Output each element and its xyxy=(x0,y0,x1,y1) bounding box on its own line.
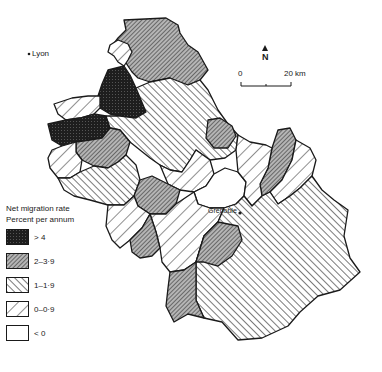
swatch-blank xyxy=(6,325,29,341)
legend-label: < 0 xyxy=(34,329,45,338)
legend-subtitle: Percent per annum xyxy=(6,214,74,225)
region-center-gray xyxy=(206,118,236,148)
legend-item-2-39: 2–3·9 xyxy=(6,249,74,273)
swatch-fine-diagonal-gray xyxy=(6,253,29,269)
legend-item-lt0: < 0 xyxy=(6,321,74,345)
legend-item-0-09: 0–0·9 xyxy=(6,297,74,321)
scale-bar xyxy=(241,82,291,86)
north-label: N xyxy=(262,52,269,62)
legend: Net migration rate Percent per annum > 4… xyxy=(6,203,74,345)
place-label-lyon: Lyon xyxy=(32,49,49,58)
legend-label: 2–3·9 xyxy=(34,257,54,266)
scale-end-label: 20 km xyxy=(284,69,306,78)
legend-label: 1–1·9 xyxy=(34,281,54,290)
legend-label: 0–0·9 xyxy=(34,305,54,314)
grenoble-marker xyxy=(238,211,241,214)
legend-item-1-19: 1–1·9 xyxy=(6,273,74,297)
legend-title: Net migration rate xyxy=(6,203,74,214)
swatch-dense-black xyxy=(6,229,29,245)
legend-label: > 4 xyxy=(34,233,45,242)
north-arrow-icon xyxy=(262,45,268,51)
swatch-forward-diagonal xyxy=(6,301,29,317)
scale-start-label: 0 xyxy=(238,69,242,78)
lyon-marker xyxy=(28,53,31,56)
legend-item-gt4: > 4 xyxy=(6,225,74,249)
place-label-grenoble: Grenoble xyxy=(208,207,237,214)
swatch-back-diagonal xyxy=(6,277,29,293)
